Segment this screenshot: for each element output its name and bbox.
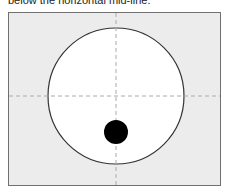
black-dot	[104, 120, 128, 144]
circle-diagram	[0, 0, 229, 193]
